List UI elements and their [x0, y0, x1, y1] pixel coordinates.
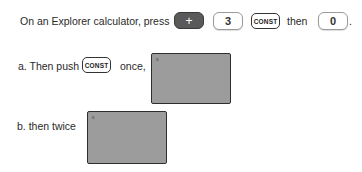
calculator-screen-b: s	[87, 111, 167, 164]
const-key: CONST	[251, 13, 280, 29]
calculator-screen-a: s	[151, 53, 231, 104]
three-key-label: 3	[225, 15, 231, 27]
part-a-suffix: once,	[120, 60, 146, 72]
screen-b-indicator: s	[92, 114, 95, 120]
instruction-prefix: On an Explorer calculator, press	[20, 15, 169, 27]
const-key-label: CONST	[254, 18, 278, 25]
plus-key: +	[174, 12, 204, 29]
part-b-label: b. then twice	[17, 120, 76, 132]
screen-a-indicator: s	[156, 56, 159, 62]
part-a-label: a. Then push	[18, 60, 79, 72]
zero-key: 0	[318, 12, 348, 30]
const-key-a: CONST	[82, 57, 111, 73]
end-punct: .	[349, 15, 352, 27]
then-text: then	[287, 15, 307, 27]
three-key: 3	[213, 12, 243, 30]
zero-key-label: 0	[330, 15, 336, 27]
plus-icon: +	[185, 14, 192, 28]
const-key-a-label: CONST	[85, 62, 109, 69]
